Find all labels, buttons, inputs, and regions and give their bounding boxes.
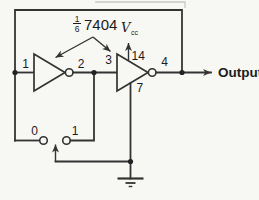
pin14-label: 14	[132, 49, 146, 63]
ic-label-pointer-arrows-icon	[56, 37, 111, 58]
vcc-subscript: cc	[131, 29, 139, 36]
fraction-numerator: 1	[75, 14, 80, 24]
pin3-label: 3	[105, 53, 112, 67]
pin7-label: 7	[137, 81, 144, 95]
pin2-label: 2	[78, 57, 85, 71]
output-label: Output	[218, 65, 259, 80]
pin4-label: 4	[161, 55, 168, 69]
circuit-diagram: 1 6 7404 V cc 1 2 3 4 14 7 0 1 Output	[0, 0, 259, 200]
inverter2-bubble	[148, 69, 156, 77]
pin1-label: 1	[22, 57, 29, 71]
junction-dot-output	[179, 70, 184, 75]
switch-contact-0[interactable]	[40, 137, 48, 145]
contact0-label: 0	[31, 124, 38, 138]
inverter1-bubble	[65, 69, 73, 77]
vcc-label: V cc	[121, 20, 139, 36]
circuit-svg: 1 6 7404 V cc 1 2 3 4 14 7 0 1 Output	[0, 0, 259, 200]
contact1-label: 1	[72, 124, 79, 138]
junction-dot-input	[12, 70, 17, 75]
part-number-label: 7404	[84, 16, 117, 33]
ground-symbol-icon	[118, 179, 144, 187]
switch-contact-1[interactable]	[63, 137, 71, 145]
junction-dot-ground	[128, 159, 133, 164]
fraction-denominator: 6	[75, 24, 80, 34]
scan-artifact-line	[95, 2, 185, 8]
ic-label: 1 6 7404	[73, 14, 117, 34]
junction-dot-mid	[91, 70, 96, 75]
inverter1-triangle	[34, 54, 65, 91]
